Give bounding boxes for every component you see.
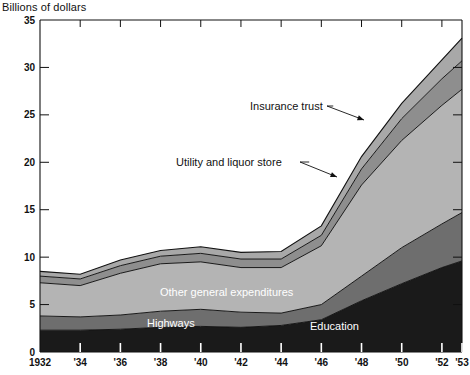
annotation-label: Insurance trust [250,100,323,112]
x-tick-label: '52 [435,357,449,368]
x-tick-label: '48 [355,357,369,368]
x-tick-label: 1932 [29,357,52,368]
y-tick-label: 30 [24,62,36,73]
x-tick-label: '42 [234,357,248,368]
x-tick-label: '50 [395,357,409,368]
y-tick-label: 0 [29,347,35,358]
y-tick-label: 15 [24,204,36,215]
y-tick-label: 10 [24,252,36,263]
annotation-label: Utility and liquor store [176,156,282,168]
x-tick-label: '34 [73,357,87,368]
y-tick-label: 35 [24,15,36,26]
x-tick-label: '36 [114,357,128,368]
chart-plot-area: 051015202530351932'34'36'38'40'42'44'46'… [0,0,470,375]
annotation-label: Education [310,320,359,332]
x-tick-label: '44 [274,357,288,368]
y-tick-label: 5 [29,299,35,310]
x-tick-label: '38 [154,357,168,368]
x-tick-label: '40 [194,357,208,368]
y-tick-label: 20 [24,157,36,168]
y-tick-label: 25 [24,109,36,120]
annotation-label: Highways [147,317,195,329]
x-tick-label: '53 [455,357,469,368]
annotation-label: Other general expenditures [160,286,294,298]
stacked-area-chart: Billions of dollars 051015202530351932'3… [0,0,470,375]
x-tick-label: '46 [315,357,329,368]
